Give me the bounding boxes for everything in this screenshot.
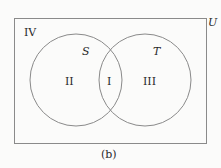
region-iii-label: III bbox=[143, 75, 156, 88]
set-t-label: T bbox=[153, 45, 162, 58]
venn-diagram: U IV S T II I III (b) bbox=[0, 0, 221, 168]
region-i-label: I bbox=[107, 75, 111, 88]
universe-label: U bbox=[208, 16, 218, 29]
set-s-label: S bbox=[82, 45, 90, 58]
region-iv-label: IV bbox=[24, 26, 37, 39]
region-ii-label: II bbox=[65, 75, 74, 88]
caption: (b) bbox=[101, 148, 117, 161]
